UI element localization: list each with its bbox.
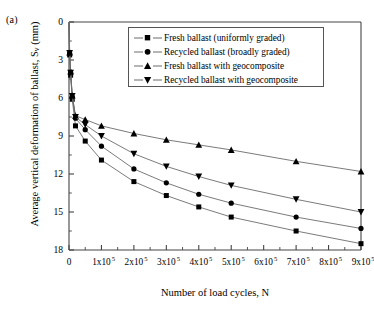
legend-marker-circle-icon [133, 46, 163, 58]
svg-text:0: 0 [58, 16, 63, 27]
svg-text:9x10: 9x10 [352, 257, 371, 267]
legend-item: Recycled ballast (broadly graded) [133, 45, 319, 59]
legend-label: Fresh ballast (uniformly graded) [163, 33, 285, 43]
svg-text:3: 3 [58, 54, 63, 65]
legend: Fresh ballast (uniformly graded) Recycle… [128, 27, 324, 87]
x-axis-label: Number of load cycles, N [69, 287, 361, 298]
legend-label: Fresh ballast with geocomposite [163, 61, 284, 71]
svg-text:5: 5 [274, 255, 278, 262]
svg-text:15: 15 [53, 206, 63, 217]
svg-text:6x10: 6x10 [254, 257, 273, 267]
svg-text:3x10: 3x10 [157, 257, 176, 267]
svg-text:0: 0 [67, 257, 72, 267]
svg-text:2x10: 2x10 [125, 257, 144, 267]
legend-marker-square-icon [133, 32, 163, 44]
svg-text:12: 12 [53, 168, 63, 179]
svg-text:5: 5 [209, 255, 213, 262]
legend-item: Fresh ballast (uniformly graded) [133, 31, 319, 45]
legend-item: Fresh ballast with geocomposite [133, 59, 319, 73]
legend-item: Recycled ballast with geocomposite [133, 73, 319, 87]
legend-marker-triangle-down-icon [133, 74, 163, 86]
svg-text:9: 9 [58, 130, 63, 141]
legend-label: Recycled ballast with geocomposite [163, 75, 298, 85]
svg-text:5: 5 [339, 255, 343, 262]
svg-text:1x10: 1x10 [92, 257, 111, 267]
svg-text:5: 5 [242, 255, 246, 262]
legend-marker-triangle-up-icon [133, 60, 163, 72]
svg-text:7x10: 7x10 [287, 257, 306, 267]
legend-label: Recycled ballast (broadly graded) [163, 47, 290, 57]
svg-text:8x10: 8x10 [319, 257, 338, 267]
svg-text:5x10: 5x10 [222, 257, 241, 267]
svg-text:18: 18 [53, 244, 63, 255]
svg-text:5: 5 [112, 255, 116, 262]
figure-panel: (a) Average vertical deformation of ball… [0, 0, 374, 313]
svg-text:4x10: 4x10 [189, 257, 208, 267]
svg-text:5: 5 [177, 255, 181, 262]
svg-text:6: 6 [58, 92, 63, 103]
svg-text:5: 5 [144, 255, 148, 262]
svg-text:5: 5 [306, 255, 310, 262]
